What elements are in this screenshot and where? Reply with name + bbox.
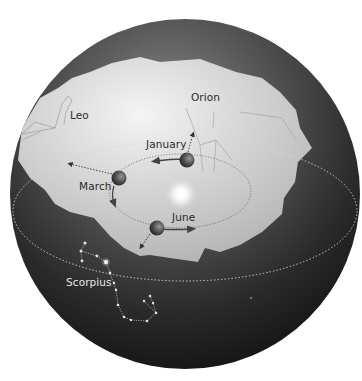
earth-icon-march [112, 171, 127, 186]
scorpius-label: Scorpius [66, 277, 112, 288]
diagram-canvas [0, 0, 362, 381]
orbit-direction-arrow-june [160, 229, 191, 230]
june-label: June [172, 212, 195, 223]
orion-label: Orion [191, 92, 220, 103]
march-label: March [79, 181, 112, 192]
january-label: January [146, 139, 187, 150]
earth-icon-january [180, 153, 195, 168]
celestial-sphere-diagram: Leo Orion January March June Scorpius [0, 0, 362, 381]
earth-icon-june [150, 221, 165, 236]
leo-label: Leo [70, 110, 89, 121]
